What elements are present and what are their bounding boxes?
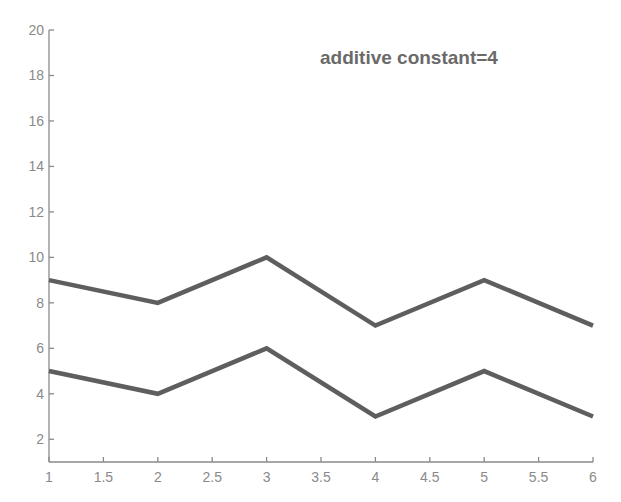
y-tick-label: 4 — [36, 386, 44, 402]
x-tick-label: 4 — [372, 469, 380, 485]
y-tick-label: 8 — [36, 295, 44, 311]
y-axis: 2468101214161820 — [28, 22, 54, 462]
x-tick-label: 6 — [589, 469, 597, 485]
y-tick-label: 10 — [28, 249, 44, 265]
x-tick-label: 5.5 — [529, 469, 549, 485]
x-tick-label: 1 — [45, 469, 53, 485]
x-tick-label: 4.5 — [420, 469, 440, 485]
series-line-lower — [49, 348, 593, 416]
y-tick-label: 20 — [28, 22, 44, 38]
y-tick-label: 14 — [28, 158, 44, 174]
y-tick-label: 16 — [28, 113, 44, 129]
x-tick-label: 5 — [480, 469, 488, 485]
y-tick-label: 12 — [28, 204, 44, 220]
x-tick-label: 2 — [154, 469, 162, 485]
line-chart: 2468101214161820 11.522.533.544.555.56 a… — [0, 0, 621, 502]
y-tick-label: 6 — [36, 340, 44, 356]
series-line-upper — [49, 257, 593, 325]
x-tick-label: 3.5 — [311, 469, 331, 485]
x-tick-label: 3 — [263, 469, 271, 485]
x-tick-label: 1.5 — [94, 469, 114, 485]
chart-annotation: additive constant=4 — [320, 47, 498, 68]
y-tick-label: 2 — [36, 431, 44, 447]
y-tick-label: 18 — [28, 67, 44, 83]
series-layer — [49, 257, 593, 416]
x-axis: 11.522.533.544.555.56 — [45, 457, 597, 485]
x-tick-label: 2.5 — [202, 469, 222, 485]
